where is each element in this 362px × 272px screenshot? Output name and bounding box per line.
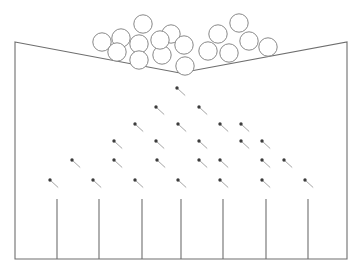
pin-head bbox=[91, 178, 94, 181]
pin-head bbox=[155, 158, 158, 161]
pin-head bbox=[197, 105, 200, 108]
pin-2 bbox=[154, 105, 164, 114]
pin-9 bbox=[197, 139, 207, 148]
ball-16 bbox=[259, 38, 277, 56]
ball-9 bbox=[175, 36, 193, 54]
pin-head bbox=[176, 122, 179, 125]
pin-head bbox=[154, 139, 157, 142]
pin-18 bbox=[133, 178, 143, 187]
ball-17 bbox=[151, 31, 169, 49]
pin-15 bbox=[260, 158, 270, 167]
pin-8 bbox=[154, 139, 164, 148]
pin-23 bbox=[239, 122, 249, 131]
pin-20 bbox=[218, 178, 228, 187]
pin-head bbox=[112, 139, 115, 142]
ball-15 bbox=[240, 32, 258, 50]
ball-10 bbox=[176, 57, 194, 75]
pin-6 bbox=[218, 122, 228, 131]
pin-21 bbox=[260, 178, 270, 187]
pin-array bbox=[48, 86, 313, 187]
pin-14 bbox=[197, 158, 207, 167]
pin-head bbox=[197, 139, 200, 142]
pin-24 bbox=[260, 139, 270, 148]
pin-head bbox=[48, 178, 51, 181]
pin-head bbox=[218, 122, 221, 125]
pin-head bbox=[154, 105, 157, 108]
galton-board-canvas bbox=[0, 0, 362, 272]
ball-5 bbox=[108, 43, 126, 61]
pin-16 bbox=[48, 178, 58, 187]
collection-bins bbox=[57, 199, 308, 259]
pin-4 bbox=[133, 122, 143, 131]
pin-head bbox=[239, 139, 242, 142]
pin-26 bbox=[218, 158, 228, 167]
pin-head bbox=[260, 158, 263, 161]
pin-10 bbox=[239, 139, 249, 148]
ball-3 bbox=[134, 15, 152, 33]
pin-head bbox=[112, 158, 115, 161]
pin-19 bbox=[176, 178, 186, 187]
ball-12 bbox=[220, 44, 238, 62]
pin-head bbox=[176, 178, 179, 181]
ball-13 bbox=[209, 25, 227, 43]
ball-reservoir bbox=[93, 14, 277, 75]
pin-13 bbox=[155, 158, 165, 167]
pin-head bbox=[218, 178, 221, 181]
pin-1 bbox=[175, 86, 185, 95]
pin-7 bbox=[112, 139, 122, 148]
pin-17 bbox=[91, 178, 101, 187]
pin-head bbox=[218, 158, 221, 161]
ball-6 bbox=[130, 51, 148, 69]
pin-head bbox=[260, 178, 263, 181]
pin-3 bbox=[197, 105, 207, 114]
ball-11 bbox=[199, 42, 217, 60]
pin-12 bbox=[112, 158, 122, 167]
pin-head bbox=[133, 178, 136, 181]
ball-14 bbox=[230, 14, 248, 32]
pin-5 bbox=[176, 122, 186, 131]
pin-head bbox=[260, 139, 263, 142]
pin-11 bbox=[70, 158, 80, 167]
pin-25 bbox=[282, 158, 292, 167]
pin-head bbox=[303, 178, 306, 181]
pin-head bbox=[282, 158, 285, 161]
pin-head bbox=[70, 158, 73, 161]
pin-22 bbox=[303, 178, 313, 187]
galton-board-diagram bbox=[0, 0, 362, 272]
pin-head bbox=[175, 86, 178, 89]
pin-head bbox=[197, 158, 200, 161]
pin-head bbox=[133, 122, 136, 125]
pin-head bbox=[239, 122, 242, 125]
